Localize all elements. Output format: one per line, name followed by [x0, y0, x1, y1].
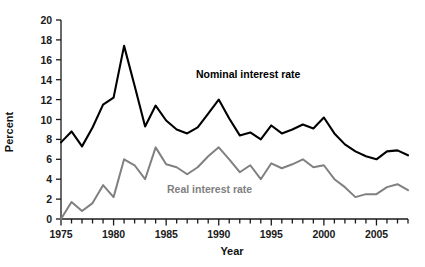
series-annotation-real: Real interest rate — [167, 183, 252, 195]
y-tick-label: 6 — [26, 153, 52, 165]
y-axis-title: Percent — [3, 112, 15, 152]
y-tick-label: 8 — [26, 133, 52, 145]
x-tick-label: 1985 — [155, 228, 178, 240]
y-tick-label: 20 — [26, 14, 52, 26]
y-tick-label: 10 — [26, 114, 52, 126]
x-tick-label: 2000 — [312, 228, 335, 240]
y-tick-label: 16 — [26, 54, 52, 66]
x-axis-ticks — [61, 219, 408, 226]
y-axis-ticks — [56, 20, 61, 219]
y-tick-label: 18 — [26, 34, 52, 46]
chart-plot-area — [0, 0, 425, 267]
y-tick-label: 4 — [26, 173, 52, 185]
series-line-nominal — [61, 46, 408, 159]
y-tick-label: 14 — [26, 74, 52, 86]
x-tick-label: 1980 — [102, 228, 125, 240]
x-tick-label: 1990 — [207, 228, 230, 240]
series-annotation-nominal: Nominal interest rate — [196, 68, 300, 80]
y-tick-label: 2 — [26, 193, 52, 205]
x-axis-title: Year — [220, 245, 243, 257]
y-tick-label: 0 — [26, 213, 52, 225]
x-tick-label: 2005 — [365, 228, 388, 240]
y-tick-label: 12 — [26, 94, 52, 106]
x-tick-label: 1995 — [260, 228, 283, 240]
interest-rate-line-chart: Percent Year Nominal interest rate Real … — [0, 0, 425, 267]
x-tick-label: 1975 — [50, 228, 73, 240]
